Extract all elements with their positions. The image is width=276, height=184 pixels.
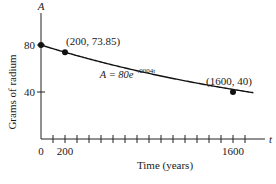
y-tick-label-80: 80 [24, 39, 36, 51]
data-point-0 [38, 42, 44, 48]
data-point-label-2: (1600, 40) [206, 75, 252, 88]
formula-main: A = 80e [99, 69, 134, 80]
formula-annotation: A = 80e−.0004t [99, 67, 155, 80]
radium-decay-chart: 408002001600(200, 73.85)(1600, 40) A t T… [0, 0, 276, 184]
data-point-2 [230, 89, 236, 95]
x-tick-label-200: 200 [57, 145, 74, 157]
data-point-1 [62, 49, 68, 55]
x-axis-title: Time (years) [137, 159, 193, 172]
y-axis-title: Grams of radium [6, 54, 18, 130]
data-point-label-1: (200, 73.85) [66, 35, 120, 48]
formula-exponent: −.0004t [134, 67, 156, 75]
x-axis-ticks [37, 45, 245, 143]
y-tick-label-40: 40 [24, 86, 36, 98]
y-axis-variable: A [37, 0, 45, 12]
x-tick-label-1600: 1600 [222, 145, 245, 157]
x-axis-variable: t [269, 133, 273, 145]
x-tick-label-0: 0 [38, 145, 44, 157]
